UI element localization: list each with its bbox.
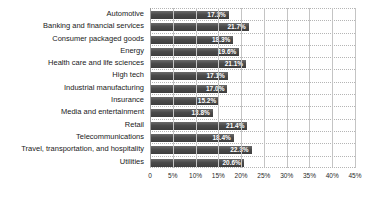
bar-value-label: 18.3% xyxy=(212,36,233,44)
category-label: Utilities xyxy=(0,156,150,168)
category-label: Industrial manufacturing xyxy=(0,82,150,94)
category-label: Automotive xyxy=(0,8,150,20)
bar-value-label: 20.6% xyxy=(222,159,243,167)
x-axis-tick-label: 15% xyxy=(212,172,225,179)
bar-track: 18.3% xyxy=(150,33,355,45)
chart-row: Travel, transportation, and hospitality2… xyxy=(0,143,367,155)
category-label: Insurance xyxy=(0,94,150,106)
bar: 17.3% xyxy=(150,11,229,19)
bar: 13.8% xyxy=(150,109,213,117)
chart-row: Utilities20.6% xyxy=(0,156,367,168)
bar-value-label: 17.1% xyxy=(206,72,227,80)
bar-track: 18.4% xyxy=(150,131,355,143)
bar-value-label: 17.0% xyxy=(206,85,227,93)
bar-track: 22.3% xyxy=(150,143,355,155)
bar-value-label: 19.6% xyxy=(218,48,239,56)
bar-value-label: 13.8% xyxy=(191,109,212,117)
category-label: Media and entertainment xyxy=(0,106,150,118)
bar-track: 17.3% xyxy=(150,8,355,20)
x-axis: 05%10%15%20%25%30%35%40%45% xyxy=(150,170,355,182)
chart-row: Energy19.6% xyxy=(0,45,367,57)
bar: 22.3% xyxy=(150,146,252,154)
category-label: Retail xyxy=(0,119,150,131)
x-axis-tick-label: 25% xyxy=(257,172,270,179)
bar-track: 21.7% xyxy=(150,20,355,32)
bar-track: 21.1% xyxy=(150,57,355,69)
category-label: Banking and financial services xyxy=(0,20,150,32)
x-axis-tick-label: 10% xyxy=(189,172,202,179)
bar-track: 17.1% xyxy=(150,69,355,81)
chart-rows: Automotive17.3%Banking and financial ser… xyxy=(0,8,367,168)
chart-row: Media and entertainment13.8% xyxy=(0,106,367,118)
chart-row: Health care and life sciences21.1% xyxy=(0,57,367,69)
x-axis-tick-label: 35% xyxy=(303,172,316,179)
category-label: Travel, transportation, and hospitality xyxy=(0,143,150,155)
bar: 21.1% xyxy=(150,60,246,68)
bar-value-label: 18.4% xyxy=(212,134,233,142)
chart-row: Industrial manufacturing17.0% xyxy=(0,82,367,94)
bar: 21.4% xyxy=(150,122,247,130)
bar-track: 19.6% xyxy=(150,45,355,57)
x-axis-tick-label: 0 xyxy=(148,172,152,179)
bar: 17.1% xyxy=(150,72,228,80)
bar: 18.4% xyxy=(150,134,234,142)
category-label: Health care and life sciences xyxy=(0,57,150,69)
bar-value-label: 21.1% xyxy=(225,60,246,68)
bar: 20.6% xyxy=(150,159,244,167)
category-label: Energy xyxy=(0,45,150,57)
bar-track: 20.6% xyxy=(150,156,355,168)
x-axis-tick-label: 30% xyxy=(280,172,293,179)
chart-row: Banking and financial services21.7% xyxy=(0,20,367,32)
bar: 18.3% xyxy=(150,36,233,44)
chart-row: High tech17.1% xyxy=(0,69,367,81)
chart-row: Consumer packaged goods18.3% xyxy=(0,33,367,45)
bar-value-label: 15.2% xyxy=(198,97,219,105)
bar-chart: Automotive17.3%Banking and financial ser… xyxy=(0,0,367,201)
x-axis-tick-label: 45% xyxy=(348,172,361,179)
bar-track: 13.8% xyxy=(150,106,355,118)
bar-value-label: 17.3% xyxy=(207,11,228,19)
chart-row: Retail21.4% xyxy=(0,119,367,131)
bar: 21.7% xyxy=(150,23,249,31)
category-label: Consumer packaged goods xyxy=(0,33,150,45)
bar-track: 21.4% xyxy=(150,119,355,131)
category-label: High tech xyxy=(0,69,150,81)
x-axis-tick-label: 40% xyxy=(326,172,339,179)
chart-row: Insurance15.2% xyxy=(0,94,367,106)
bar-track: 15.2% xyxy=(150,94,355,106)
chart-row: Telecommunications18.4% xyxy=(0,131,367,143)
x-axis-tick-label: 5% xyxy=(168,172,177,179)
chart-row: Automotive17.3% xyxy=(0,8,367,20)
bar: 15.2% xyxy=(150,97,219,105)
x-axis-tick-label: 20% xyxy=(235,172,248,179)
bar-value-label: 21.4% xyxy=(226,122,247,130)
bar-value-label: 21.7% xyxy=(227,23,248,31)
bar-track: 17.0% xyxy=(150,82,355,94)
bar: 17.0% xyxy=(150,85,227,93)
bar: 19.6% xyxy=(150,48,239,56)
bar-value-label: 22.3% xyxy=(230,146,251,154)
category-label: Telecommunications xyxy=(0,131,150,143)
